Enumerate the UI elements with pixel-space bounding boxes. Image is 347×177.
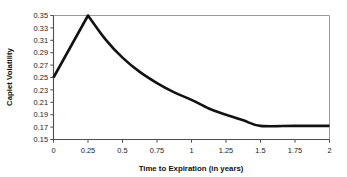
caplet-volatility-chart: 0.150.170.190.210.230.250.270.290.310.33… bbox=[0, 0, 347, 177]
x-axis-title: Time to Expiration (in years) bbox=[139, 164, 244, 173]
y-axis-tick-labels: 0.150.170.190.210.230.250.270.290.310.33… bbox=[34, 11, 48, 144]
y-axis-tick-label: 0.31 bbox=[34, 36, 48, 45]
x-axis-tick-label: 1.25 bbox=[219, 146, 233, 155]
y-axis-tick-label: 0.29 bbox=[34, 48, 48, 57]
x-axis-tick-label: 1.75 bbox=[288, 146, 302, 155]
x-axis-tick-label: 1 bbox=[189, 146, 193, 155]
y-axis-tick-label: 0.27 bbox=[34, 61, 48, 70]
y-axis-title: Caplet Volatility bbox=[5, 47, 14, 106]
x-axis-tick-label: 0.75 bbox=[150, 146, 164, 155]
x-axis-tick-label: 0 bbox=[51, 146, 55, 155]
y-axis-tick-label: 0.19 bbox=[34, 110, 48, 119]
x-axis-tick-label: 2 bbox=[327, 146, 331, 155]
y-axis-tick-label: 0.15 bbox=[34, 135, 48, 144]
y-axis-tick-label: 0.33 bbox=[34, 24, 48, 33]
y-axis-tick-label: 0.21 bbox=[34, 98, 48, 107]
y-axis-tick-label: 0.25 bbox=[34, 73, 48, 82]
y-axis-tick-label: 0.35 bbox=[34, 11, 48, 20]
y-axis-tick-label: 0.23 bbox=[34, 86, 48, 95]
x-axis-tick-label: 1.5 bbox=[255, 146, 265, 155]
x-axis-tick-label: 0.5 bbox=[117, 146, 127, 155]
x-axis-tick-labels: 00.250.50.7511.251.51.752 bbox=[51, 146, 331, 155]
chart-canvas: 0.150.170.190.210.230.250.270.290.310.33… bbox=[0, 0, 347, 177]
x-axis-tick-label: 0.25 bbox=[81, 146, 95, 155]
y-axis-tick-label: 0.17 bbox=[34, 123, 48, 132]
